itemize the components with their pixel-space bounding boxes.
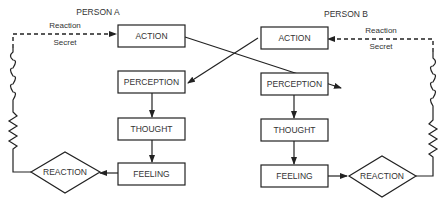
person-a-title: PERSON A: [76, 7, 120, 17]
person-a-reaction-label: REACTION: [43, 167, 87, 177]
person-a-thought-node: THOUGHT: [118, 118, 185, 140]
person-b-thought-label: THOUGHT: [273, 125, 315, 135]
person-a-action-label: ACTION: [135, 31, 167, 41]
person-a-feeling-label: FEELING: [133, 169, 169, 179]
person-a-feedback-loop: [9, 34, 116, 172]
communication-diagram: PERSON A PERSON B Reaction Secret Reacti…: [0, 0, 444, 203]
person-b-feeling-node: FEELING: [261, 165, 328, 187]
person-b-zigzag: [416, 114, 437, 176]
person-a-feeling-node: FEELING: [118, 163, 185, 185]
person-a-feedback-reaction-label: Reaction: [49, 21, 81, 30]
person-a-reaction-node: REACTION: [31, 152, 100, 193]
person-b-perception-node: PERCEPTION: [261, 73, 328, 95]
person-b-feeling-label: FEELING: [276, 171, 312, 181]
person-b-title: PERSON B: [324, 9, 368, 19]
person-b-feedback-loop: [328, 39, 437, 176]
person-a-coil: [11, 48, 16, 108]
arrow-b-action-to-a-perception: [188, 38, 258, 83]
person-b-reaction-label: REACTION: [360, 171, 404, 181]
person-b-feedback-secret-label: Secret: [369, 42, 393, 51]
person-b-perception-label: PERCEPTION: [267, 79, 322, 89]
person-b-feedback-reaction-label: Reaction: [365, 26, 397, 35]
person-b-action-node: ACTION: [261, 27, 328, 49]
person-a-zigzag: [9, 108, 31, 172]
person-a-feedback-secret-label: Secret: [53, 38, 77, 47]
person-b-reaction-node: REACTION: [349, 156, 416, 197]
person-a-action-node: ACTION: [118, 25, 185, 47]
person-b-coil: [431, 52, 436, 114]
person-a-perception-node: PERCEPTION: [118, 71, 185, 93]
person-a-perception-label: PERCEPTION: [124, 77, 179, 87]
person-a-thought-label: THOUGHT: [130, 124, 172, 134]
person-b-thought-node: THOUGHT: [261, 119, 328, 141]
person-b-action-label: ACTION: [278, 33, 310, 43]
